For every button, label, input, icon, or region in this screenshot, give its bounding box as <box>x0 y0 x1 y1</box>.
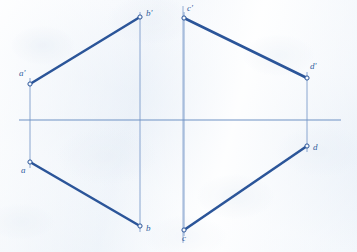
point-label-c: c <box>182 234 186 243</box>
point-label-a-prime: a' <box>19 69 25 78</box>
segment-c-d <box>184 146 307 230</box>
point-marker-d <box>305 144 309 148</box>
point-marker-c-prime <box>182 16 186 20</box>
point-marker-d-prime <box>305 76 309 80</box>
point-label-b-prime: b' <box>146 9 152 18</box>
drawing-sheet: a' b' a b c' d' c d <box>0 0 357 252</box>
point-label-c-prime: c' <box>187 4 193 13</box>
segment-a-prime-b-prime <box>30 17 140 84</box>
projector-line-group <box>30 12 307 236</box>
point-label-a: a <box>21 166 26 175</box>
point-marker-b <box>138 224 142 228</box>
object-line-group <box>30 17 307 230</box>
point-marker-a <box>28 160 32 164</box>
point-label-d: d <box>313 143 318 152</box>
point-marker-a-prime <box>28 82 32 86</box>
point-marker-c <box>182 228 186 232</box>
segment-a-b <box>30 162 140 226</box>
projection-drawing-canvas <box>0 0 357 252</box>
segment-c-prime-d-prime <box>184 18 307 78</box>
point-label-b: b <box>146 224 151 233</box>
point-label-d-prime: d' <box>310 62 316 71</box>
point-marker-group <box>28 15 309 232</box>
point-marker-b-prime <box>138 15 142 19</box>
